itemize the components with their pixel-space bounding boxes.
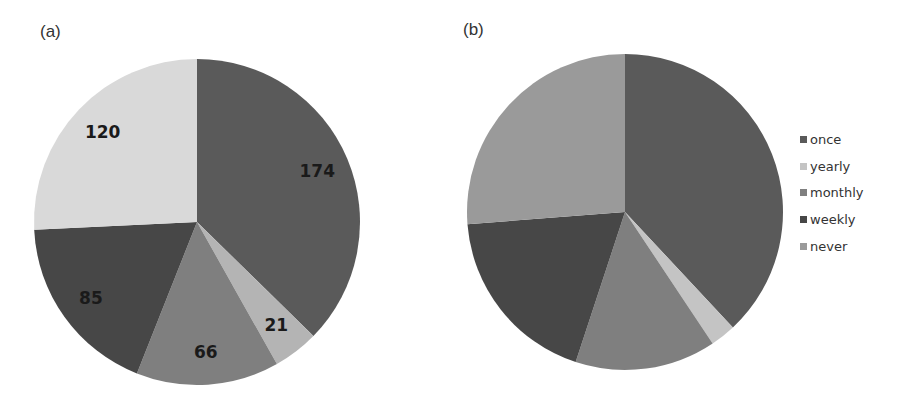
pie-charts: 174216685120: [0, 0, 901, 402]
legend-label: once: [810, 132, 841, 147]
legend-swatch-yearly: [800, 163, 807, 170]
data-label-never: 120: [85, 122, 121, 142]
legend-item-once: once: [800, 126, 864, 153]
legend-item-yearly: yearly: [800, 153, 864, 180]
legend-swatch-once: [800, 136, 807, 143]
pie-chart-a: 174216685120: [34, 59, 360, 385]
legend-swatch-monthly: [800, 189, 807, 196]
data-label-weekly: 85: [79, 288, 103, 308]
pie-chart-b: [467, 54, 783, 370]
legend-item-monthly: monthly: [800, 179, 864, 206]
legend-item-weekly: weekly: [800, 206, 864, 233]
legend-item-never: never: [800, 233, 864, 260]
data-label-monthly: 66: [194, 342, 218, 362]
pie-slice-never: [34, 59, 197, 230]
data-label-yearly: 21: [264, 315, 288, 335]
legend-swatch-never: [800, 243, 807, 250]
pie-slice-never: [467, 54, 625, 224]
legend: once yearly monthly weekly never: [800, 126, 864, 259]
legend-label: yearly: [810, 159, 850, 174]
legend-label: never: [810, 239, 847, 254]
legend-label: monthly: [810, 185, 864, 200]
legend-label: weekly: [810, 212, 855, 227]
legend-swatch-weekly: [800, 216, 807, 223]
data-label-once: 174: [299, 161, 335, 181]
